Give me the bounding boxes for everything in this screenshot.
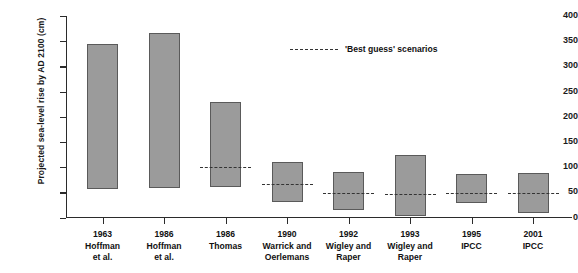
y-tick-mark — [60, 167, 66, 168]
best-guess-line — [446, 193, 497, 194]
x-axis-line — [66, 217, 572, 218]
y-tick-mark — [60, 142, 66, 143]
legend-label-best-guess: 'Best guess' scenarios — [345, 44, 437, 54]
x-tick-mark — [226, 218, 227, 224]
best-guess-line — [385, 194, 436, 195]
sea-level-rise-bar-chart: Projected sea-level rise by AD 2100 (cm)… — [0, 0, 578, 273]
y-tick-label: 200 — [524, 111, 578, 121]
y-tick-mark — [60, 192, 66, 193]
best-guess-line — [200, 167, 251, 168]
y-tick-label: 400 — [524, 10, 578, 20]
x-tick-mark — [472, 218, 473, 224]
x-tick-mark — [164, 218, 165, 224]
range-bar — [395, 155, 426, 216]
range-bar — [456, 174, 487, 203]
x-tick-mark — [533, 218, 534, 224]
y-axis-line — [66, 16, 67, 218]
y-tick-label: 250 — [524, 86, 578, 96]
x-label-source-line1: IPCC — [497, 241, 569, 253]
y-tick-label: 100 — [524, 161, 578, 171]
x-tick-mark — [349, 218, 350, 224]
x-label-source-line2: et al. — [128, 252, 200, 264]
y-tick-label: 300 — [524, 60, 578, 70]
best-guess-line — [323, 193, 374, 194]
best-guess-dashed-line-icon — [290, 49, 338, 50]
y-tick-label: 350 — [524, 35, 578, 45]
x-tick-mark — [410, 218, 411, 224]
y-axis-title: Projected sea-level rise by AD 2100 (cm) — [36, 6, 46, 196]
y-tick-mark — [60, 16, 66, 17]
best-guess-line — [262, 184, 313, 185]
legend: 'Best guess' scenarios — [290, 44, 437, 54]
y-tick-mark — [60, 66, 66, 67]
y-tick-mark — [60, 92, 66, 93]
y-tick-mark — [60, 41, 66, 42]
y-tick-label: 150 — [524, 136, 578, 146]
x-category-label: 2001IPCC — [497, 229, 569, 252]
x-tick-mark — [287, 218, 288, 224]
x-tick-mark — [103, 218, 104, 224]
y-tick-mark — [60, 218, 66, 219]
x-label-year: 2001 — [497, 229, 569, 241]
range-bar — [149, 33, 180, 189]
y-tick-mark — [60, 117, 66, 118]
range-bar — [333, 172, 364, 210]
x-label-source-line2: Raper — [374, 252, 446, 264]
range-bar — [272, 162, 303, 202]
best-guess-line — [508, 193, 559, 194]
range-bar — [210, 102, 241, 188]
range-bar — [87, 44, 118, 190]
